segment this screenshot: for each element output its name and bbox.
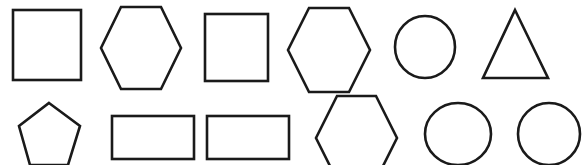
- shape-triangle-1[interactable]: [483, 10, 548, 78]
- shape-hexagon-3[interactable]: [316, 96, 397, 165]
- shape-square-2[interactable]: [205, 14, 268, 81]
- shape-rectangle-2[interactable]: [207, 116, 289, 159]
- shape-circle-2[interactable]: [425, 103, 491, 165]
- shape-grid-canvas: [0, 0, 584, 165]
- shape-pentagon-1[interactable]: [19, 103, 80, 165]
- shape-square-1[interactable]: [13, 10, 81, 80]
- shape-circle-1[interactable]: [395, 16, 455, 78]
- shape-layer: [0, 0, 584, 165]
- shape-circle-3[interactable]: [518, 103, 580, 165]
- shape-hexagon-2[interactable]: [288, 8, 370, 92]
- shape-rectangle-1[interactable]: [112, 116, 194, 159]
- shape-hexagon-1[interactable]: [101, 7, 181, 89]
